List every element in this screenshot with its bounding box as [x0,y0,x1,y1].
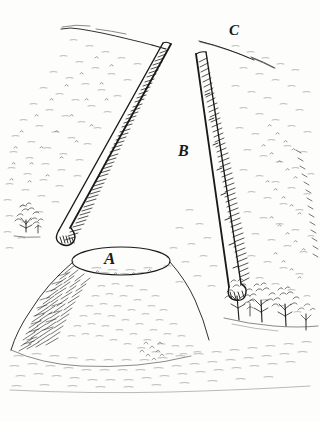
foreground-texture [10,342,311,393]
mound-summit-ellipse [72,247,170,275]
tree-left [14,203,43,238]
tree-5 [244,299,255,316]
tree-3 [272,287,299,326]
enclosure-interior-texture [164,210,217,287]
outer-ground-texture [232,46,318,313]
mound-turf-right [68,284,201,355]
engraving-plate: .ln { stroke:#1a1a18; fill:none; stroke-… [0,0,320,421]
tree-4 [298,304,315,330]
label-c: C [229,23,239,38]
mound-shading-left [19,266,90,351]
label-a: A [104,250,115,267]
label-b: B [178,143,189,159]
left-bank [56,42,171,245]
upper-left-ground-texture [4,40,141,249]
tree-group-right [224,279,318,331]
drawing-canvas: .ln { stroke:#1a1a18; fill:none; stroke-… [0,0,320,421]
horizon-line [61,25,275,68]
right-bank [196,52,249,301]
tree-2 [248,283,275,322]
